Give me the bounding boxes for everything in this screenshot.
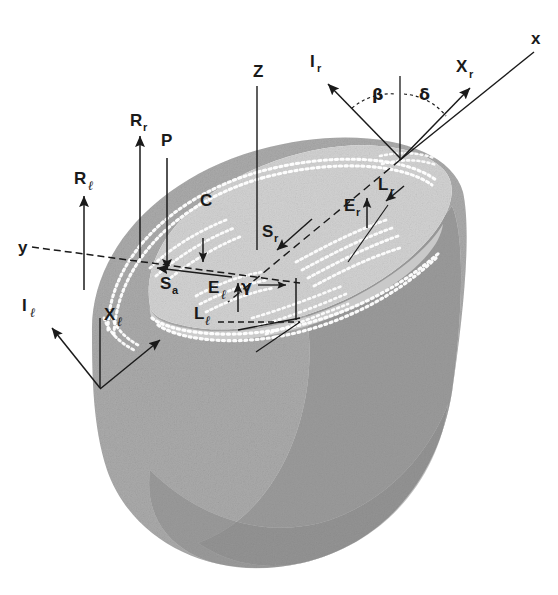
label-z-axis: Z xyxy=(253,62,263,81)
label-centroid-C: C xyxy=(200,191,212,210)
label-I-l-sub: ℓ xyxy=(30,305,36,320)
label-x-axis: x xyxy=(531,29,541,48)
angle-arcs-group xyxy=(352,94,446,116)
label-R-r-sub: r xyxy=(143,121,148,133)
label-X-r-base: X xyxy=(456,57,468,76)
label-I-r-sub: r xyxy=(317,62,322,74)
label-L-l-sub: ℓ xyxy=(205,313,211,328)
label-y-axis: y xyxy=(18,238,28,257)
label-angle-gamma: γ xyxy=(241,277,252,296)
label-vector-P: P xyxy=(161,131,172,150)
label-vector-I-r: I r xyxy=(310,52,322,74)
vector-X-r xyxy=(400,88,470,160)
figure-canvas: Z y x R r P R ℓ S a S r E ℓ xyxy=(0,0,558,595)
label-X-l-sub: ℓ xyxy=(117,314,123,329)
label-vector-R-r: R r xyxy=(130,111,148,133)
label-S-a-sub: a xyxy=(172,284,179,296)
vertebral-body-diagram: Z y x R r P R ℓ S a S r E ℓ xyxy=(0,0,558,595)
label-L-r-sub: r xyxy=(390,185,395,197)
label-E-l-base: E xyxy=(208,278,219,297)
label-S-r-sub: r xyxy=(274,232,279,244)
label-E-r-sub: r xyxy=(356,206,361,218)
label-X-r-sub: r xyxy=(469,68,474,80)
label-vector-R-l: R ℓ xyxy=(74,169,94,193)
label-S-r-base: S xyxy=(262,222,273,241)
label-E-r-base: E xyxy=(344,196,355,215)
label-I-l-base: I xyxy=(22,296,27,315)
label-vector-I-l: I ℓ xyxy=(22,296,36,320)
label-X-l-base: X xyxy=(104,305,116,324)
label-I-r-base: I xyxy=(310,52,315,71)
label-angle-delta: δ xyxy=(419,85,430,104)
label-L-r-base: L xyxy=(378,175,388,194)
label-R-r-base: R xyxy=(130,111,142,130)
label-vector-X-r: X r xyxy=(456,57,474,80)
label-R-l-base: R xyxy=(74,169,86,188)
label-R-l-sub: ℓ xyxy=(88,178,94,193)
vertebral-body-shape xyxy=(92,137,467,568)
label-angle-beta: β xyxy=(372,85,383,104)
label-E-l-sub: ℓ xyxy=(221,287,227,302)
label-L-l-base: L xyxy=(194,304,204,323)
label-S-a-base: S xyxy=(160,274,171,293)
